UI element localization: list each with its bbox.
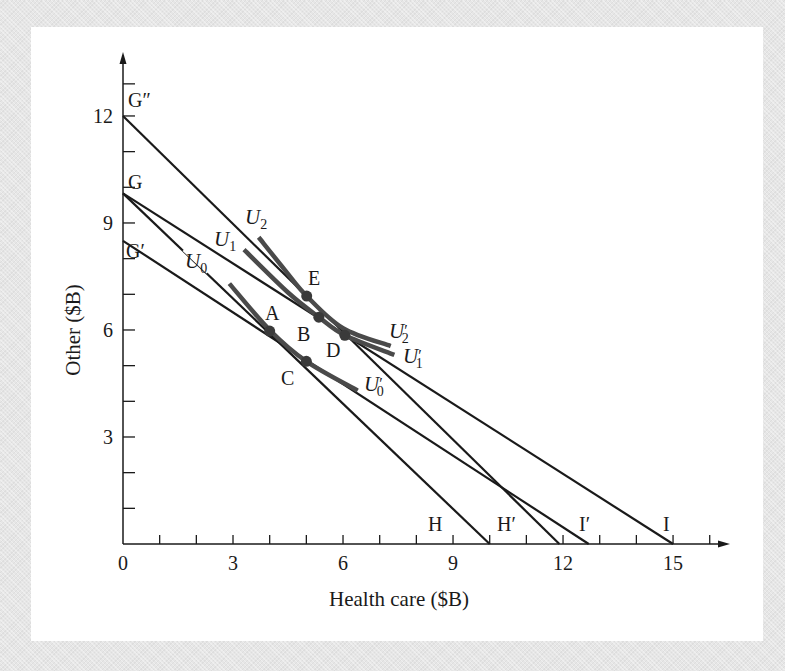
- x-ticks: [160, 535, 710, 544]
- budget-line-gpp-hp: [123, 116, 559, 544]
- label-h: H: [428, 513, 442, 535]
- label-h-prime: H′: [497, 513, 516, 535]
- x-axis-title: Health care ($B): [329, 587, 469, 611]
- label-d: D: [326, 339, 340, 361]
- y-tick-label: 9: [103, 212, 113, 234]
- budget-line-g-i: [123, 193, 673, 544]
- origin-label: 0: [118, 552, 128, 574]
- label-g-double-prime: G″: [128, 89, 151, 111]
- point-e: [301, 291, 312, 302]
- label-e: E: [308, 267, 320, 289]
- x-tick-label: 15: [663, 552, 683, 574]
- point-b: [313, 312, 324, 323]
- x-tick-label: 12: [553, 552, 573, 574]
- y-tick-label: 3: [103, 426, 113, 448]
- label-i-prime: I′: [579, 513, 590, 535]
- label-a: A: [265, 302, 280, 324]
- y-ticks: [123, 84, 135, 508]
- label-u2-prime: U′2: [389, 319, 409, 346]
- point-d: [339, 330, 350, 341]
- x-tick-label: 9: [448, 552, 458, 574]
- label-u1: U1: [214, 227, 236, 254]
- budget-line-gp-ip: [123, 241, 589, 544]
- y-tick-label: 12: [93, 105, 113, 127]
- axes: [120, 52, 731, 548]
- y-axis-arrow-icon: [120, 52, 127, 64]
- x-tick-label: 3: [228, 552, 238, 574]
- point-c: [301, 356, 312, 367]
- figure-panel: 0 3 6 9 12 15 3 6 9 12 Health care ($B) …: [31, 27, 763, 641]
- label-u0-prime: U′0: [364, 372, 384, 399]
- y-tick-labels: 3 6 9 12: [93, 105, 113, 448]
- indifference-curves: [229, 237, 394, 390]
- label-b: B: [297, 323, 310, 345]
- label-c: C: [281, 367, 294, 389]
- label-u1-prime: U′1: [403, 344, 423, 371]
- y-tick-label: 6: [103, 319, 113, 341]
- label-g-prime: G′: [126, 240, 145, 262]
- label-u2: U2: [245, 205, 267, 232]
- x-axis-arrow-icon: [718, 541, 730, 548]
- indifference-curve-diagram: 0 3 6 9 12 15 3 6 9 12 Health care ($B) …: [31, 27, 763, 641]
- intercept-labels: G″ G G′ H H′ I′ I: [126, 89, 670, 535]
- x-tick-labels: 0 3 6 9 12 15: [118, 552, 683, 574]
- x-tick-label: 6: [338, 552, 348, 574]
- label-i: I: [663, 513, 670, 535]
- budget-line-g-h: [123, 193, 490, 544]
- label-g: G: [128, 171, 142, 193]
- y-axis-title: Other ($B): [61, 284, 85, 376]
- curve-labels: U2 U1 U0 U′2 U′1 U′0: [185, 205, 423, 399]
- point-a: [264, 326, 275, 337]
